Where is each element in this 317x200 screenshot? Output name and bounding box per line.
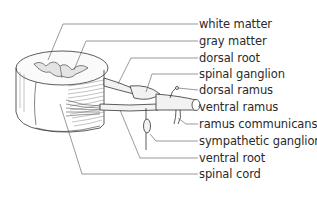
leader-sympathetic-ganglion — [150, 134, 198, 141]
label-white-matter: white matter — [199, 18, 272, 31]
label-ventral-ramus: ventral ramus — [199, 101, 278, 114]
label-spinal-ganglion: spinal ganglion — [199, 68, 285, 81]
leader-ventral-root — [120, 110, 198, 158]
label-sympathetic-ganglion: sympathetic ganglion — [199, 135, 317, 148]
leader-dorsal-ramus — [178, 88, 198, 90]
leader-dorsal-root — [118, 58, 198, 84]
label-spinal-cord: spinal cord — [199, 168, 261, 181]
label-ramus-communicans: ramus communicans — [199, 118, 317, 131]
label-gray-matter: gray matter — [199, 35, 267, 48]
spinal-cord-drawing — [16, 51, 108, 132]
leader-ramus-communicans — [178, 118, 198, 124]
label-dorsal-root: dorsal root — [199, 52, 260, 65]
spinal-cord-diagram: white matter gray matter dorsal root spi… — [0, 0, 317, 200]
label-dorsal-ramus: dorsal ramus — [199, 84, 273, 97]
label-ventral-root: ventral root — [199, 152, 265, 165]
